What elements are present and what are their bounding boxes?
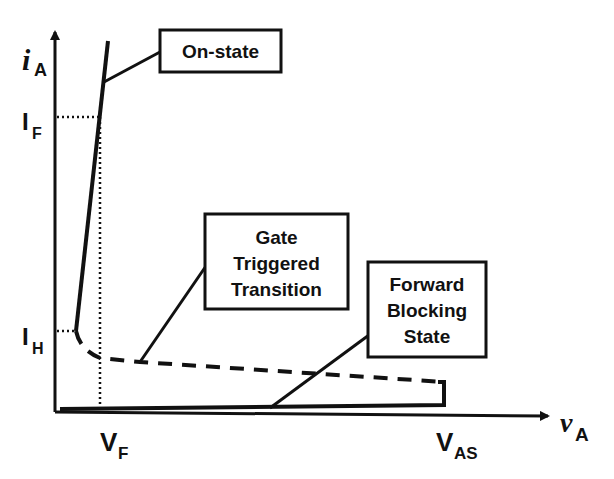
y-axis-label: i A bbox=[22, 43, 47, 80]
tick-label-if: I F bbox=[22, 108, 42, 142]
tick-label-vf: V F bbox=[100, 427, 128, 463]
gate-transition-leader bbox=[140, 266, 206, 362]
blocking-state-curve bbox=[60, 382, 444, 409]
tick-label-vas: V AS bbox=[436, 427, 478, 463]
x-axis bbox=[55, 412, 548, 416]
svg-text:Blocking: Blocking bbox=[387, 300, 467, 321]
svg-text:Transition: Transition bbox=[231, 279, 322, 300]
svg-text:F: F bbox=[32, 125, 42, 142]
gate-triggered-callout: Gate Triggered Transition bbox=[205, 214, 348, 309]
forward-blocking-callout: Forward Blocking State bbox=[368, 262, 486, 357]
svg-text:Forward: Forward bbox=[390, 274, 465, 295]
svg-text:AS: AS bbox=[454, 444, 478, 463]
on-state-callout: On-state bbox=[160, 30, 281, 72]
svg-text:State: State bbox=[404, 326, 450, 347]
svg-text:I: I bbox=[22, 108, 29, 135]
on-state-leader bbox=[104, 52, 160, 82]
svg-text:i: i bbox=[22, 43, 31, 76]
svg-text:Gate: Gate bbox=[255, 227, 297, 248]
svg-text:A: A bbox=[34, 60, 47, 80]
on-state-curve bbox=[76, 41, 108, 331]
svg-text:A: A bbox=[575, 424, 589, 445]
svg-text:H: H bbox=[32, 340, 44, 357]
x-axis-label: v A bbox=[560, 407, 589, 445]
svg-text:v: v bbox=[560, 407, 573, 438]
svg-text:V: V bbox=[436, 427, 454, 457]
tick-label-ih: I H bbox=[22, 323, 44, 357]
svg-text:I: I bbox=[22, 323, 29, 350]
svg-text:Triggered: Triggered bbox=[233, 253, 320, 274]
svg-text:V: V bbox=[100, 427, 118, 457]
svg-text:F: F bbox=[118, 444, 128, 463]
thyristor-iv-diagram: i A v A I F I H V F V AS On-state Gate bbox=[0, 0, 614, 479]
svg-text:On-state: On-state bbox=[182, 41, 259, 62]
